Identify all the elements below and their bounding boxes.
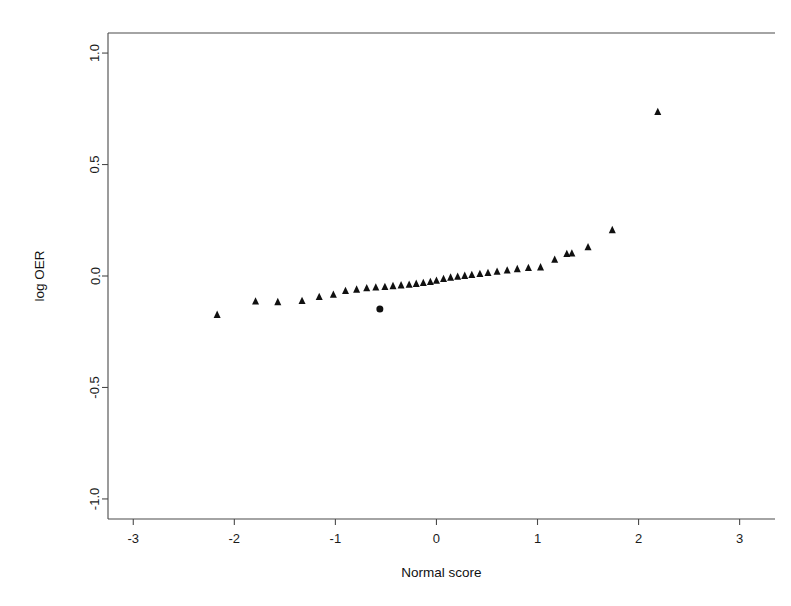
data-point-triangle (525, 264, 532, 271)
data-point-triangle (353, 285, 360, 292)
data-point-triangle (551, 255, 558, 262)
x-tick-label: -1 (330, 531, 342, 546)
chart-canvas: -3-2-10123-1.0-0.50.00.51.0Normal scorel… (0, 0, 791, 606)
data-layer (214, 108, 662, 318)
data-point-triangle (372, 283, 379, 290)
data-point-triangle (476, 270, 483, 277)
x-tick-label: -3 (127, 531, 139, 546)
data-point-triangle (454, 272, 461, 279)
data-point-triangle (433, 276, 440, 283)
axes-frame (108, 33, 775, 519)
y-tick-label: -1.0 (88, 488, 103, 510)
data-point-triangle (299, 297, 306, 304)
data-point-triangle (585, 243, 592, 250)
data-point-triangle (484, 269, 491, 276)
data-point-triangle (381, 283, 388, 290)
data-point-triangle (504, 266, 511, 273)
data-point-triangle (447, 273, 454, 280)
data-point-triangle (568, 249, 575, 256)
data-point-triangle (316, 293, 323, 300)
qq-plot-figure: -3-2-10123-1.0-0.50.00.51.0Normal scorel… (0, 0, 791, 606)
data-point-triangle (252, 297, 259, 304)
data-point-triangle (406, 280, 413, 287)
data-point-triangle (214, 311, 221, 318)
data-point-triangle (363, 284, 370, 291)
data-point-triangle (514, 265, 521, 272)
y-tick-label: 0.5 (88, 155, 103, 173)
data-point-triangle (342, 287, 349, 294)
data-point-triangle (654, 108, 661, 115)
data-point-triangle (494, 268, 501, 275)
x-tick-label: 0 (433, 531, 440, 546)
x-axis-title: Normal score (401, 565, 481, 580)
data-point-triangle (330, 290, 337, 297)
y-tick-label: 0.0 (88, 267, 103, 285)
data-point-triangle (440, 275, 447, 282)
data-point-circle (376, 305, 383, 312)
y-tick-label: 1.0 (88, 44, 103, 62)
data-point-triangle (389, 282, 396, 289)
data-series-0 (214, 108, 662, 318)
y-axis-title: log OER (32, 250, 47, 301)
y-tick-label: -0.5 (88, 376, 103, 398)
x-tick-label: -2 (229, 531, 241, 546)
data-point-triangle (427, 278, 434, 285)
data-point-triangle (420, 279, 427, 286)
x-tick-label: 2 (635, 531, 642, 546)
data-point-triangle (274, 298, 281, 305)
data-point-triangle (398, 281, 405, 288)
y-axis: -1.0-0.50.00.51.0 (88, 44, 109, 510)
data-point-triangle (468, 271, 475, 278)
x-tick-label: 1 (534, 531, 541, 546)
data-series-1 (376, 305, 383, 312)
data-point-triangle (461, 272, 468, 279)
x-tick-label: 3 (736, 531, 743, 546)
data-point-triangle (413, 280, 420, 287)
data-point-triangle (537, 263, 544, 270)
x-axis: -3-2-10123 (127, 519, 743, 546)
data-point-triangle (609, 226, 616, 233)
